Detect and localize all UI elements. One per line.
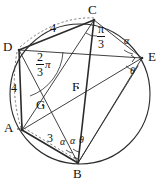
- angle-d-numerator: 2: [36, 51, 44, 63]
- vertex-label-E: E: [148, 50, 156, 63]
- length-label-da: 4: [11, 82, 17, 94]
- angle-arc-at-b-2: [73, 149, 79, 152]
- diagram-canvas: [0, 0, 163, 183]
- dashed-arc-DC: [20, 18, 95, 47]
- angle-label-alpha-e: α: [124, 36, 129, 46]
- vertex-label-F: F: [72, 80, 79, 93]
- length-label-dc: 4: [50, 22, 56, 34]
- angle-arc-at-c: [86, 33, 97, 36]
- angle-c-denominator: 3: [97, 38, 105, 50]
- angle-label-theta-b: θ: [79, 135, 84, 145]
- vertex-label-C: C: [88, 3, 97, 16]
- geometry-figure: A B C D E F G 4 4 3 π 3 2 3 π α θ α α θ: [0, 0, 163, 183]
- tick-mark-e: [131, 55, 135, 62]
- vertex-label-A: A: [4, 121, 13, 134]
- angle-arc-at-e-alpha: [124, 50, 133, 54]
- angle-label-at-d: 2 3 π: [36, 51, 51, 78]
- angle-label-alpha-b-2: α: [70, 136, 75, 146]
- angle-d-denominator: 3: [36, 66, 44, 78]
- segment-DA: [19, 50, 22, 130]
- vertex-dot-D: [18, 49, 21, 52]
- vertex-label-G: G: [36, 98, 45, 111]
- vertex-dot-E: [141, 57, 144, 60]
- length-label-ab: 3: [47, 132, 53, 144]
- vertex-label-B: B: [73, 167, 82, 180]
- angle-label-at-c: π 3: [97, 23, 105, 50]
- angle-label-theta-e: θ: [130, 66, 135, 76]
- vertex-dot-C: [93, 19, 96, 22]
- vertex-label-D: D: [3, 40, 12, 53]
- vertex-dot-B: [77, 162, 80, 165]
- vertex-dot-A: [21, 129, 24, 132]
- angle-label-alpha-b-1: α: [60, 137, 65, 147]
- segment-DC: [19, 20, 94, 50]
- angle-d-pi-symbol: π: [44, 59, 51, 70]
- angle-c-numerator: π: [97, 23, 105, 35]
